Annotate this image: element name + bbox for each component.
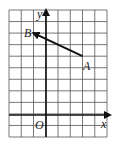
point-a-label: A	[82, 59, 91, 73]
point-b-label: B	[24, 26, 32, 40]
y-axis-label: y	[36, 7, 43, 21]
x-axis-label: x	[100, 117, 107, 131]
origin-label: O	[35, 118, 44, 132]
coordinate-grid: y x O B A	[0, 0, 116, 153]
